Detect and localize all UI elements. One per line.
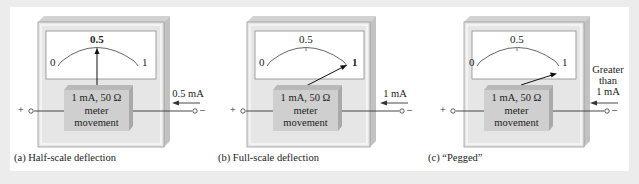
figure-full-scale: + – 0 0.5 1 1 mA, 50 Ω meter movement 1 … [213, 0, 426, 184]
terminal-minus [605, 109, 609, 113]
movement-line3: movement [484, 117, 549, 130]
current-label-line1: Greater [587, 64, 629, 75]
current-label: 0.5 mA [166, 88, 210, 100]
scale-mid-label: 0.5 [299, 33, 313, 45]
terminal-plus [29, 109, 33, 113]
scale-min-label: 0 [259, 56, 265, 68]
movement-line3: movement [64, 117, 129, 130]
minus-label: – [612, 104, 617, 115]
movement-line2: meter [273, 105, 338, 118]
plus-label: + [18, 104, 24, 115]
scale-min-label: 0 [50, 56, 56, 68]
movement-line3: movement [273, 117, 338, 130]
current-label-line2: than [587, 75, 629, 86]
current-arrow [172, 101, 200, 106]
movement-rating: 1 mA, 50 Ω [273, 92, 338, 105]
caption-c: (c) “Pegged” [428, 152, 483, 163]
current-label: 1 mA [375, 88, 415, 100]
scale-max-label: 1 [352, 56, 358, 68]
movement-line2: meter [484, 105, 549, 118]
scale-min-label: 0 [469, 56, 475, 68]
movement-rating: 1 mA, 50 Ω [64, 92, 129, 105]
scale-mid-label: 0.5 [510, 33, 524, 45]
terminal-plus [451, 109, 455, 113]
current-label: Greater than 1 mA [587, 64, 629, 97]
current-label-line3: 1 mA [587, 86, 629, 97]
current-value: 1 mA [375, 88, 415, 100]
caption-a: (a) Half-scale deflection [14, 152, 116, 163]
movement-label: 1 mA, 50 Ω meter movement [484, 92, 549, 130]
minus-label: – [407, 104, 412, 115]
terminal-minus [193, 109, 197, 113]
figure-half-scale: + – 0 0.5 1 1 mA, 50 Ω meter movement 0.… [0, 0, 213, 184]
plus-label: + [230, 104, 236, 115]
terminal-minus [400, 109, 404, 113]
movement-label: 1 mA, 50 Ω meter movement [273, 92, 338, 130]
minus-label: – [200, 104, 205, 115]
movement-rating: 1 mA, 50 Ω [484, 92, 549, 105]
meter-face [472, 31, 576, 79]
plus-label: + [440, 104, 446, 115]
figure-pegged: + – 0 0.5 1 1 mA, 50 Ω meter movement Gr… [426, 0, 639, 184]
scale-max-label: 1 [562, 56, 568, 68]
movement-label: 1 mA, 50 Ω meter movement [64, 92, 129, 130]
current-value: 0.5 mA [166, 88, 210, 100]
current-arrow [380, 101, 408, 106]
caption-b: (b) Full-scale deflection [218, 152, 319, 163]
scale-mid-label: 0.5 [90, 33, 104, 45]
movement-line2: meter [64, 105, 129, 118]
scale-max-label: 1 [142, 56, 148, 68]
terminal-plus [241, 109, 245, 113]
